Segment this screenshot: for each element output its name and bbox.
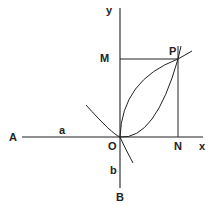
label-B: B bbox=[116, 191, 124, 203]
label-b: b bbox=[110, 164, 117, 176]
label-M: M bbox=[100, 52, 109, 64]
label-P: P bbox=[169, 45, 176, 57]
label-x: x bbox=[199, 140, 206, 152]
label-y: y bbox=[106, 4, 113, 16]
label-N: N bbox=[174, 140, 182, 152]
label-A: A bbox=[9, 131, 17, 143]
label-O: O bbox=[108, 140, 117, 152]
label-a: a bbox=[59, 124, 66, 136]
parabola-diagram: y M P A a O N x b B bbox=[0, 0, 211, 206]
